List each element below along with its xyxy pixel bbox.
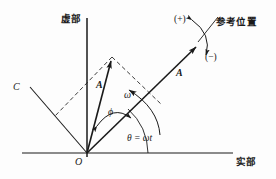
reference-line-c <box>30 87 87 153</box>
reference-line-label-c: C <box>13 82 20 92</box>
theta-equation-label: θ = ωt <box>127 134 152 144</box>
omega-label: ω <box>124 90 131 100</box>
vector-a-short-label: A <box>96 80 103 90</box>
reference-position-leader-line <box>198 17 218 42</box>
negative-sense-label: (−) <box>205 53 217 63</box>
real-axis-label: 实部 <box>236 157 256 167</box>
dashed-line-to-a <box>112 57 162 105</box>
phi-label: ϕ <box>108 107 113 117</box>
theta-angle-arc <box>128 109 148 153</box>
origin-label: O <box>75 157 82 167</box>
imaginary-axis-label: 虚部 <box>61 14 81 24</box>
reference-position-label: 参考位置 <box>216 17 257 27</box>
dashed-line-to-c <box>55 57 112 116</box>
vector-a-long-label: A <box>176 68 183 78</box>
positive-sense-label: (+) <box>174 15 186 25</box>
phi-angle-double-arrow <box>97 113 131 126</box>
figure-canvas: 虚部 实部 O C A A ω ϕ θ = ωt (+) (−) 参考位置 <box>0 0 276 179</box>
